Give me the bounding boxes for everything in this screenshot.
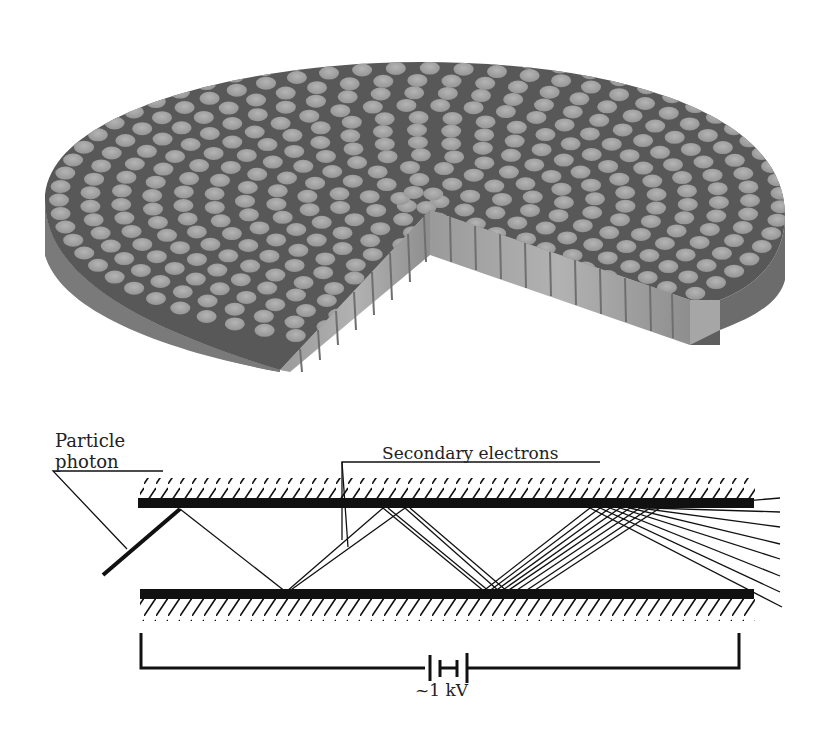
- voltage-label: ~1 kV: [415, 680, 468, 700]
- figure-svg: [0, 0, 824, 744]
- top-channel-wall: [138, 498, 754, 508]
- bottom-hatch: [140, 599, 755, 621]
- mcp-disc: [45, 49, 791, 372]
- particle-label-line2: photon: [55, 451, 125, 472]
- bottom-channel-wall: [140, 589, 754, 599]
- top-hatch: [140, 478, 755, 500]
- secondary-electrons-label: Secondary electrons: [382, 443, 559, 463]
- incident-particle: [103, 509, 180, 575]
- channel-cross-section: [53, 462, 782, 683]
- particle-photon-label: Particle photon: [55, 430, 125, 472]
- voltage-circuit: [141, 633, 739, 683]
- particle-label-line1: Particle: [55, 430, 125, 451]
- microchannel-plate-figure: Particle photon Secondary electrons ~1 k…: [0, 0, 824, 744]
